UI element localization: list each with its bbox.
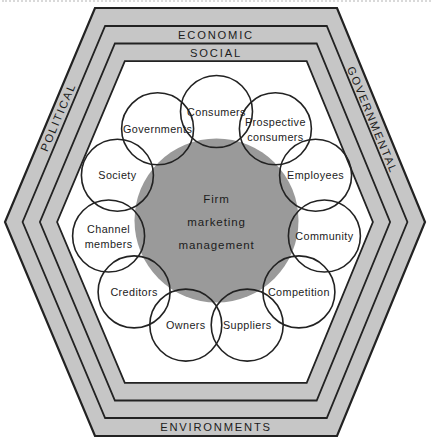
stakeholder-label-consumers: Consumers bbox=[187, 106, 246, 118]
stakeholder-label-employees: Employees bbox=[287, 169, 344, 181]
cropped-text-artifact bbox=[2, 0, 431, 2]
stakeholder-label-suppliers: Suppliers bbox=[223, 319, 272, 331]
stakeholder-label-community: Community bbox=[295, 230, 353, 242]
stakeholder-label-line: Owners bbox=[166, 319, 206, 331]
band-label-social: SOCIAL bbox=[190, 47, 242, 59]
stakeholder-label-line: Competition bbox=[268, 286, 330, 298]
stakeholder-label-owners: Owners bbox=[166, 319, 206, 331]
stakeholder-label-line: Governments bbox=[123, 123, 192, 135]
stakeholder-label-line: members bbox=[85, 238, 133, 250]
stakeholder-label-line: Prospective bbox=[245, 116, 306, 128]
stakeholder-label-line: Channel bbox=[87, 223, 130, 235]
stakeholder-label-line: Consumers bbox=[187, 106, 246, 118]
firm-core-label-line: Firm bbox=[203, 193, 230, 205]
stakeholder-label-line: Creditors bbox=[110, 286, 158, 298]
band-label-economic: ECONOMIC bbox=[178, 29, 254, 41]
firm-core-label-line: marketing bbox=[187, 216, 246, 228]
stakeholder-label-creditors: Creditors bbox=[110, 286, 158, 298]
environments-diagram: ECONOMICSOCIALPOLITICALGOVERNMENTALENVIR… bbox=[0, 0, 433, 440]
band-label-environments: ENVIRONMENTS bbox=[160, 421, 272, 433]
stakeholder-label-line: Employees bbox=[287, 169, 344, 181]
diagram-page: ECONOMICSOCIALPOLITICALGOVERNMENTALENVIR… bbox=[0, 0, 433, 440]
stakeholder-label-line: Society bbox=[98, 169, 136, 181]
stakeholder-label-line: Suppliers bbox=[223, 319, 272, 331]
stakeholder-label-governments: Governments bbox=[123, 123, 192, 135]
stakeholder-label-society: Society bbox=[98, 169, 136, 181]
stakeholder-label-line: Community bbox=[295, 230, 353, 242]
firm-core-label-line: management bbox=[178, 239, 254, 251]
stakeholder-label-competition: Competition bbox=[268, 286, 330, 298]
stakeholder-label-line: consumers bbox=[247, 131, 304, 143]
